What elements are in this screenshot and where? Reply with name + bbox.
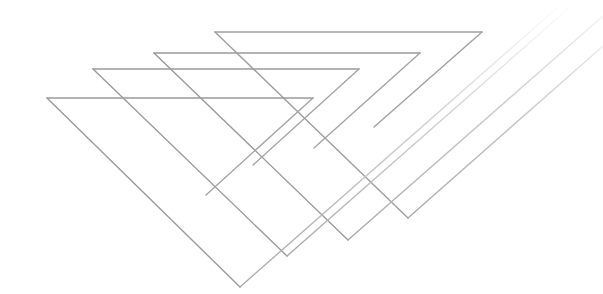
chevron-c bbox=[154, 16, 603, 240]
line-art-graphic bbox=[0, 0, 603, 294]
chevron-b-tail bbox=[287, 0, 578, 256]
chevron-d bbox=[215, 32, 603, 218]
chevron-b-left-edge bbox=[93, 69, 287, 256]
chevron-c-tail bbox=[348, 16, 603, 240]
chevron-a-left-edge bbox=[47, 98, 240, 287]
chevron-a bbox=[47, 0, 566, 287]
chevron-c-left-edge bbox=[154, 53, 348, 240]
line-art-canvas bbox=[0, 0, 603, 294]
chevron-a-inner-edge bbox=[206, 98, 313, 195]
chevron-d-left-edge bbox=[215, 32, 408, 218]
chevron-a-tail bbox=[240, 0, 566, 287]
